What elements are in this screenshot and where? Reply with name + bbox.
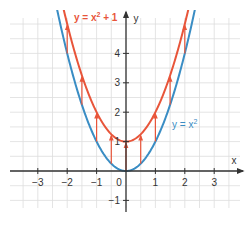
y-tick-label: 2 xyxy=(114,107,120,118)
y-tick-label: −1 xyxy=(109,195,121,206)
function-graph: −3−2−10123−11234 x y y = x2 + 1 y = x2 xyxy=(0,0,250,228)
x-tick-label: −1 xyxy=(91,177,103,188)
x-tick-label: 0 xyxy=(116,177,122,188)
legend-label-parabola-main: y = x xyxy=(172,119,193,130)
x-tick-label: −2 xyxy=(61,177,73,188)
x-axis-label: x xyxy=(232,155,237,166)
legend-label-shifted-main: y = x xyxy=(74,12,97,23)
x-tick-label: −3 xyxy=(32,177,44,188)
grid-lines xyxy=(10,18,240,208)
x-tick-label: 1 xyxy=(153,177,159,188)
x-tick-label: 3 xyxy=(211,177,217,188)
legend-label-parabola: y = x2 xyxy=(172,118,197,130)
legend-label-shifted-tail: + 1 xyxy=(100,12,117,23)
y-tick-label: 4 xyxy=(114,48,120,59)
x-tick-label: 2 xyxy=(182,177,188,188)
legend-label-shifted-parabola: y = x2 + 1 xyxy=(74,11,118,23)
legend-label-parabola-sup: 2 xyxy=(193,118,197,125)
y-tick-label: 1 xyxy=(114,136,120,147)
y-axis-label: y xyxy=(134,13,139,24)
y-tick-label: 3 xyxy=(114,77,120,88)
